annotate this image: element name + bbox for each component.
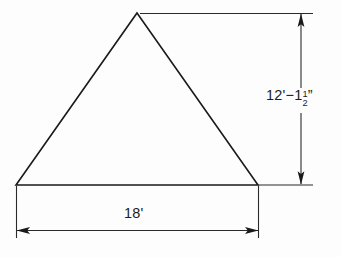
- vertical-dimension-separator: −: [286, 88, 295, 103]
- vertical-dimension-label: 12' − 1 1 2 ”: [266, 88, 313, 112]
- horizontal-dimension-label: 18': [124, 206, 144, 221]
- triangle-shape: [16, 13, 258, 185]
- drawing-svg: [0, 0, 341, 257]
- technical-drawing-canvas: 12' − 1 1 2 ” 18': [0, 0, 341, 257]
- vertical-dimension-inch-mark: ”: [308, 88, 313, 103]
- vertical-dimension-feet: 12': [266, 88, 286, 103]
- vertical-dimension-whole-inches: 1: [294, 88, 302, 103]
